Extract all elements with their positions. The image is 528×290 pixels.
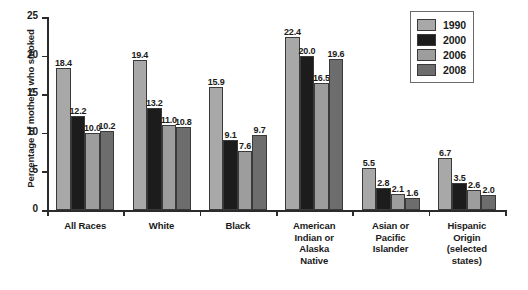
- y-axis-tick-label: 10: [27, 126, 38, 137]
- bar-group: 19.413.211.010.8: [133, 17, 191, 210]
- bar-value-label: 3.5: [454, 173, 466, 183]
- y-axis-tick-label: 15: [27, 87, 38, 98]
- bar-value-label: 2.1: [392, 184, 404, 194]
- legend-swatch: [417, 49, 436, 61]
- bar[interactable]: 1.6: [405, 198, 420, 210]
- y-axis-tick: 10: [42, 133, 47, 135]
- y-axis-tick-label: 25: [27, 10, 38, 21]
- bar[interactable]: 2.8: [376, 188, 391, 210]
- x-axis-label-line: Alaska: [276, 243, 352, 255]
- bar[interactable]: 16.5: [314, 83, 329, 210]
- bar-chart: Percentage of mothers who smoked 0510152…: [0, 0, 528, 290]
- y-axis-title: Percentage of mothers who smoked: [25, 9, 36, 209]
- bar-value-label: 22.4: [284, 27, 301, 37]
- bar-value-label: 16.5: [313, 73, 330, 83]
- bar-value-label: 13.2: [146, 98, 163, 108]
- x-axis-tick: [505, 210, 507, 216]
- x-axis-label-line: Hispanic: [429, 220, 505, 232]
- legend-item[interactable]: 2000: [417, 32, 466, 47]
- legend: 1990200020062008: [410, 11, 474, 83]
- y-axis-line: [47, 17, 49, 210]
- bar[interactable]: 15.9: [209, 87, 224, 210]
- bar-group: 18.412.210.010.2: [56, 17, 114, 210]
- y-axis-tick-label: 5: [32, 164, 38, 175]
- bar[interactable]: 7.6: [238, 151, 253, 210]
- x-axis-tick: [200, 210, 202, 216]
- bar[interactable]: 2.0: [481, 195, 496, 210]
- bar[interactable]: 10.2: [100, 131, 115, 210]
- y-axis-tick: 15: [42, 94, 47, 96]
- y-axis-tick: 20: [42, 56, 47, 58]
- bar[interactable]: 10.0: [85, 133, 100, 210]
- bar-value-label: 2.0: [483, 185, 495, 195]
- legend-item[interactable]: 2006: [417, 47, 466, 62]
- bar[interactable]: 20.0: [300, 56, 315, 210]
- x-axis-label: White: [123, 220, 199, 232]
- x-axis-label-line: states): [429, 255, 505, 267]
- x-axis-label-line: Islander: [352, 243, 428, 255]
- x-axis-label-line: White: [123, 220, 199, 232]
- legend-swatch: [417, 19, 436, 31]
- bar-value-label: 6.7: [439, 148, 451, 158]
- bar-value-label: 10.2: [99, 121, 116, 131]
- x-axis-label: All Races: [47, 220, 123, 232]
- bar-value-label: 12.2: [70, 106, 87, 116]
- legend-label: 2006: [443, 49, 466, 61]
- bar-value-label: 1.6: [406, 188, 418, 198]
- y-axis-tick: 25: [42, 17, 47, 19]
- bar-value-label: 18.4: [55, 58, 72, 68]
- bar[interactable]: 6.7: [438, 158, 453, 210]
- x-axis-label-line: All Races: [47, 220, 123, 232]
- legend-label: 1990: [443, 19, 466, 31]
- bar[interactable]: 22.4: [285, 37, 300, 210]
- bar-value-label: 2.6: [468, 180, 480, 190]
- x-axis-label-line: Pacific: [352, 232, 428, 244]
- y-axis-tick: 5: [42, 171, 47, 173]
- bar[interactable]: 2.1: [391, 194, 406, 210]
- x-axis-tick: [276, 210, 278, 216]
- x-axis-label-line: (selected: [429, 243, 505, 255]
- bar-value-label: 5.5: [363, 158, 375, 168]
- bar-group: 15.99.17.69.7: [209, 17, 267, 210]
- bar-group: 22.420.016.519.6: [285, 17, 343, 210]
- bar[interactable]: 19.6: [329, 59, 344, 210]
- legend-swatch: [417, 64, 436, 76]
- bar[interactable]: 9.1: [223, 140, 238, 210]
- bar-value-label: 9.1: [225, 130, 237, 140]
- bar[interactable]: 19.4: [133, 60, 148, 210]
- x-axis-label-line: Black: [200, 220, 276, 232]
- bar-value-label: 2.8: [377, 178, 389, 188]
- bar-value-label: 7.6: [239, 141, 251, 151]
- legend-item[interactable]: 2008: [417, 62, 466, 77]
- bar[interactable]: 9.7: [252, 135, 267, 210]
- x-axis-label: AmericanIndian orAlaskaNative: [276, 220, 352, 266]
- x-axis-label: HispanicOrigin(selectedstates): [429, 220, 505, 266]
- y-axis-tick-label: 20: [27, 49, 38, 60]
- bar-value-label: 19.6: [328, 49, 345, 59]
- x-axis-label-line: Origin: [429, 232, 505, 244]
- x-axis-label-line: Asian or: [352, 220, 428, 232]
- bar-value-label: 19.4: [131, 50, 148, 60]
- bar[interactable]: 10.8: [176, 127, 191, 210]
- bar[interactable]: 18.4: [56, 68, 71, 210]
- x-axis-label-line: Indian or: [276, 232, 352, 244]
- legend-swatch: [417, 34, 436, 46]
- x-axis-tick: [47, 210, 49, 216]
- x-axis-label: Asian orPacificIslander: [352, 220, 428, 255]
- x-axis-tick: [352, 210, 354, 216]
- bar[interactable]: 2.6: [467, 190, 482, 210]
- x-axis-tick: [123, 210, 125, 216]
- bar[interactable]: 12.2: [71, 116, 86, 210]
- x-axis-label: Black: [200, 220, 276, 232]
- legend-label: 2000: [443, 34, 466, 46]
- x-axis-tick: [429, 210, 431, 216]
- legend-item[interactable]: 1990: [417, 17, 466, 32]
- x-axis-label-line: Native: [276, 255, 352, 267]
- bar[interactable]: 13.2: [147, 108, 162, 210]
- bar[interactable]: 11.0: [162, 125, 177, 210]
- legend-label: 2008: [443, 64, 466, 76]
- bar[interactable]: 3.5: [452, 183, 467, 210]
- bar[interactable]: 5.5: [362, 168, 377, 210]
- bar-value-label: 15.9: [208, 77, 225, 87]
- x-axis-label-line: American: [276, 220, 352, 232]
